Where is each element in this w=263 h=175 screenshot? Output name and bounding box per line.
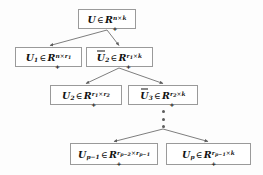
node-u-p[interactable]: Up∈R+rp−1×k: [166, 143, 251, 165]
diagram-canvas: U∈R+n×k U1∈R+n×r1 U2∈R+r1×k U2∈R+r1×r2 U…: [0, 0, 263, 175]
edge-ellipsis-to-up: [163, 129, 208, 142]
node-u-p-minus-1[interactable]: Up−1∈R+rp−2×rp−1: [70, 143, 158, 165]
node-u3-bar[interactable]: U3∈R+r2×k: [128, 85, 198, 105]
node-u-p-label: Up∈R+rp−1×k: [182, 149, 235, 160]
ellipsis-dot: [162, 118, 165, 121]
node-root[interactable]: U∈R+n×k: [78, 9, 136, 29]
edge-u2bar-to-u3bar: [119, 68, 163, 84]
ellipsis-dot: [162, 125, 165, 128]
edge-root-to-u1: [50, 30, 107, 46]
vertical-ellipsis-icon: [161, 110, 166, 128]
node-u-p-minus-1-label: Up−1∈R+rp−2×rp−1: [78, 149, 150, 160]
edge-ellipsis-to-up-minus-1: [114, 129, 163, 142]
edge-root-to-u2bar: [107, 30, 119, 46]
node-u1[interactable]: U1∈R+n×r1: [15, 47, 82, 67]
node-u3-bar-label: U3∈R+r2×k: [140, 90, 186, 101]
node-u2-bar[interactable]: U2∈R+r1×k: [86, 47, 153, 67]
ellipsis-dot: [162, 110, 165, 113]
node-root-label: U∈R+n×k: [87, 14, 126, 24]
node-u2[interactable]: U2∈R+r1×r2: [50, 85, 122, 105]
node-u2-label: U2∈R+r1×r2: [62, 90, 110, 101]
node-u1-label: U1∈R+n×r1: [26, 52, 72, 63]
edge-u2bar-to-u2: [86, 68, 119, 84]
node-u2-bar-label: U2∈R+r1×k: [97, 52, 143, 63]
